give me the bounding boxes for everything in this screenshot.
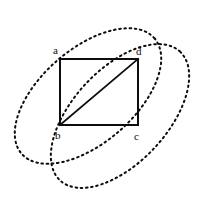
vertex-label-c: c [134, 131, 139, 142]
geometry-figure: a d b c [0, 0, 204, 200]
vertex-label-b: b [55, 130, 61, 141]
dotted-ellipse-1 [0, 3, 185, 189]
vertex-label-a: a [53, 45, 58, 56]
diagonal-line-bd [60, 59, 138, 125]
vertex-label-d: d [136, 46, 142, 57]
figure-canvas [0, 0, 204, 200]
